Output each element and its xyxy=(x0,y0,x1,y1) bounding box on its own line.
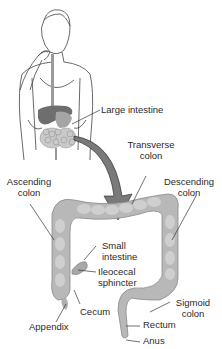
label-sigmoid-colon: Sigmoid colon xyxy=(170,298,216,319)
label-ascending-colon: Ascending colon xyxy=(4,177,54,198)
label-transverse-colon: Transverse colon xyxy=(126,140,176,161)
label-cecum: Cecum xyxy=(80,307,110,318)
label-ileocecal-sphincter: Ileocecal sphincter xyxy=(98,267,137,288)
label-rectum: Rectum xyxy=(143,320,176,331)
label-anus: Anus xyxy=(143,336,165,347)
label-large-intestine: Large intestine xyxy=(101,105,163,116)
large-intestine-diagram: Large intestine Transverse colon Ascendi… xyxy=(0,0,222,349)
esophagus xyxy=(51,54,54,106)
label-small-intestine: Small intestine xyxy=(102,241,137,262)
label-appendix: Appendix xyxy=(29,322,69,333)
small-intestine-stub xyxy=(72,262,87,275)
label-descending-colon: Descending colon xyxy=(160,177,218,198)
appendix-shape xyxy=(62,298,69,310)
mini-intestines xyxy=(40,128,76,148)
